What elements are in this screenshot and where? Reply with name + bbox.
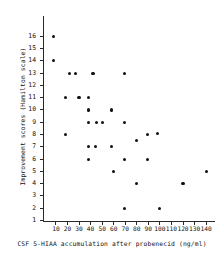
y-axis-tick	[40, 122, 44, 123]
x-axis-line	[43, 221, 215, 222]
y-axis-tick	[40, 85, 44, 86]
plot-area: 12345678910111213141516 1020304050607080…	[0, 0, 224, 261]
y-axis-tick-label: 6	[20, 156, 36, 163]
y-axis-tick	[40, 195, 44, 196]
y-axis-tick-label-text: 12	[22, 82, 36, 88]
data-point	[135, 182, 138, 185]
data-point	[146, 133, 149, 136]
y-axis-tick	[40, 220, 44, 221]
data-point	[205, 170, 208, 173]
data-point	[101, 121, 104, 124]
data-point	[68, 72, 71, 75]
y-axis-tick	[40, 146, 44, 147]
y-axis-tick-label-text: 9	[22, 119, 36, 125]
data-point	[87, 158, 90, 161]
y-axis-tick-label-text: 5	[22, 168, 36, 174]
y-axis-tick	[40, 109, 44, 110]
data-point	[110, 108, 113, 111]
y-axis-tick-label-text: 6	[22, 156, 36, 162]
y-axis-tick-label: 4	[20, 180, 36, 187]
scatter-plot-figure: Improvement scores (Hamilton scale) 1234…	[0, 0, 224, 261]
data-point	[135, 139, 138, 142]
y-axis-tick-label-text: 8	[22, 131, 36, 137]
y-axis-tick-label: 16	[20, 33, 36, 40]
data-point	[74, 72, 77, 75]
y-axis-tick-label-text: 10	[22, 106, 36, 112]
data-point	[112, 170, 115, 173]
y-axis-tick-label-text: 15	[22, 45, 36, 51]
y-axis-tick-label: 3	[20, 192, 36, 199]
data-point	[181, 182, 184, 185]
data-point	[156, 132, 159, 135]
data-point	[91, 72, 94, 75]
data-point	[52, 59, 55, 62]
y-axis-tick-label-text: 7	[22, 143, 36, 149]
data-point	[87, 121, 90, 124]
x-axis-title: CSF 5-HIAA accumulation after probenecid…	[0, 240, 224, 247]
y-axis-tick	[40, 159, 44, 160]
data-point	[64, 96, 67, 99]
data-point	[87, 108, 90, 111]
y-axis-tick-label-text: 11	[22, 94, 36, 100]
y-axis-tick	[40, 134, 44, 135]
y-axis-tick-label: 9	[20, 119, 36, 126]
data-point	[123, 72, 126, 75]
data-point	[94, 145, 97, 148]
x-axis-tick-label: 140	[198, 225, 214, 232]
y-axis-tick	[40, 60, 44, 61]
y-axis-tick-label: 13	[20, 70, 36, 77]
y-axis-tick-label-text: 16	[22, 33, 36, 39]
data-point	[123, 121, 126, 124]
data-point	[95, 121, 98, 124]
y-axis-tick-label-text: 3	[22, 192, 36, 198]
data-point	[110, 145, 113, 148]
y-axis-tick-label-text: 2	[22, 205, 36, 211]
y-axis-tick-label-text: 4	[22, 180, 36, 186]
data-point	[77, 96, 80, 99]
y-axis-tick	[40, 48, 44, 49]
y-axis-tick	[40, 208, 44, 209]
y-axis-tick-label-text: 14	[22, 57, 36, 63]
data-point	[87, 145, 90, 148]
data-point	[146, 158, 149, 161]
y-axis-tick	[40, 73, 44, 74]
y-axis-tick-label: 5	[20, 168, 36, 175]
y-axis-tick	[40, 36, 44, 37]
y-axis-tick-label: 10	[20, 106, 36, 113]
data-point	[123, 158, 126, 161]
y-axis-tick-label-text: 1	[22, 217, 36, 223]
data-point	[87, 96, 90, 99]
y-axis-tick-label: 12	[20, 82, 36, 89]
y-axis-tick-label: 1	[20, 217, 36, 224]
data-point	[52, 35, 55, 38]
y-axis-tick-label: 15	[20, 45, 36, 52]
y-axis-tick-label-text: 13	[22, 70, 36, 76]
y-axis-tick-label: 11	[20, 94, 36, 101]
y-axis-tick-label: 8	[20, 131, 36, 138]
y-axis-tick-label: 2	[20, 205, 36, 212]
y-axis-line	[43, 16, 44, 222]
data-point	[158, 207, 161, 210]
y-axis-tick	[40, 97, 44, 98]
y-axis-tick	[40, 183, 44, 184]
y-axis-tick	[40, 171, 44, 172]
y-axis-tick-label: 7	[20, 143, 36, 150]
data-point	[123, 207, 126, 210]
y-axis-tick-label: 14	[20, 57, 36, 64]
data-point	[64, 133, 67, 136]
